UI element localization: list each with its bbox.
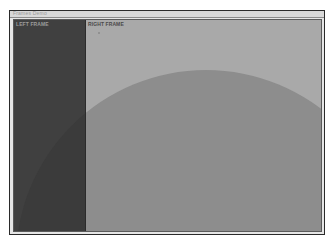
client-area: LEFT FRAME RIGHT FRAME: [13, 19, 322, 232]
cursor-dot-icon: [98, 32, 100, 34]
app-window: Frames Demo LEFT FRAME RIGHT FRAME: [9, 10, 325, 235]
window-title: Frames Demo: [13, 10, 47, 16]
right-frame-label: RIGHT FRAME: [88, 21, 124, 27]
left-frame-label: LEFT FRAME: [16, 21, 49, 27]
right-frame[interactable]: RIGHT FRAME: [86, 20, 321, 231]
title-bar[interactable]: Frames Demo: [10, 11, 324, 18]
left-frame[interactable]: LEFT FRAME: [14, 20, 86, 231]
